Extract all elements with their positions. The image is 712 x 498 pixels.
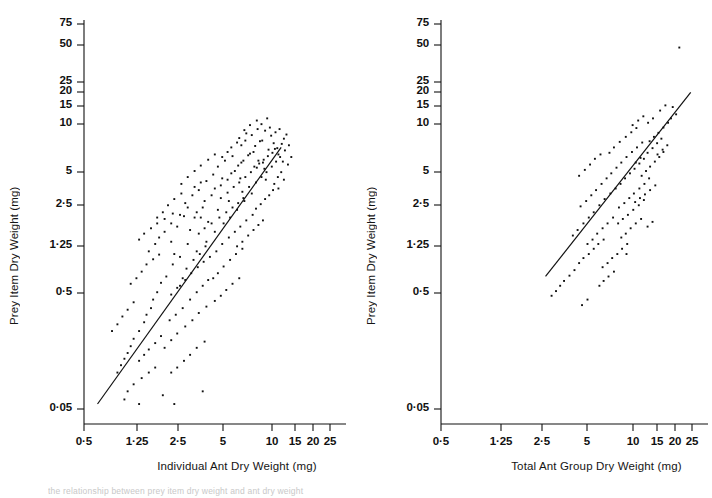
data-point (244, 176, 246, 178)
data-point (638, 188, 640, 190)
data-point (626, 156, 628, 158)
data-point (281, 143, 283, 145)
data-point (133, 301, 135, 303)
data-point (180, 193, 182, 195)
data-point (657, 153, 659, 155)
data-point (158, 237, 160, 239)
data-point (214, 300, 216, 302)
data-point (600, 153, 602, 155)
data-point (187, 243, 189, 245)
data-point (277, 176, 279, 178)
scatter-points (111, 117, 292, 405)
data-point (640, 218, 642, 220)
data-point (243, 129, 245, 131)
data-point (638, 163, 640, 165)
data-point (587, 299, 589, 301)
data-point (638, 204, 640, 206)
data-point (133, 338, 135, 340)
data-point (252, 214, 254, 216)
data-point (578, 175, 580, 177)
data-point (156, 217, 158, 219)
data-point (189, 354, 191, 356)
data-point (205, 241, 207, 243)
data-point (164, 218, 166, 220)
data-point (597, 243, 599, 245)
data-point (141, 271, 143, 273)
data-point (172, 263, 174, 265)
data-point (255, 208, 257, 210)
data-point (626, 253, 628, 255)
data-point (551, 295, 553, 297)
data-point (632, 124, 634, 126)
data-point (220, 184, 222, 186)
data-point (559, 285, 561, 287)
data-point (193, 259, 195, 261)
data-point (620, 183, 622, 185)
data-point (620, 162, 622, 164)
x-tick-label: 5 (567, 435, 607, 447)
data-point (160, 282, 162, 284)
data-point (198, 189, 200, 191)
data-point (613, 271, 615, 273)
data-point (635, 222, 637, 224)
y-tick-label: 50 (357, 37, 429, 49)
data-point (130, 345, 132, 347)
data-point (637, 120, 639, 122)
data-point (245, 132, 247, 134)
data-point (618, 207, 620, 209)
y-tick-label: 75 (0, 16, 72, 28)
data-point (223, 266, 225, 268)
data-point (643, 199, 645, 201)
data-point (627, 214, 629, 216)
y-tick-label: 50 (0, 37, 72, 49)
data-point (256, 120, 258, 122)
data-point (173, 403, 175, 405)
data-point (164, 231, 166, 233)
data-point (135, 277, 137, 279)
data-point (116, 323, 118, 325)
data-point (249, 124, 251, 126)
data-point (244, 140, 246, 142)
y-tick-label: 25 (0, 74, 72, 86)
data-point (262, 162, 264, 164)
x-axis-title-right: Total Ant Group Dry Weight (mg) (451, 460, 712, 472)
data-point (143, 354, 145, 356)
data-point (196, 211, 198, 213)
data-point (170, 339, 172, 341)
data-point (205, 245, 207, 247)
data-point (199, 253, 201, 255)
data-point (154, 243, 156, 245)
data-point (196, 291, 198, 293)
data-point (207, 279, 209, 281)
data-point (191, 194, 193, 196)
data-point (625, 136, 627, 138)
data-point (123, 358, 125, 360)
data-point (232, 155, 234, 157)
data-point (257, 128, 259, 130)
data-point (598, 204, 600, 206)
data-point (207, 159, 209, 161)
data-point (229, 259, 231, 261)
data-point (214, 153, 216, 155)
data-point (282, 161, 284, 163)
data-point (256, 167, 258, 169)
data-point (154, 367, 156, 369)
data-point (275, 131, 277, 133)
data-point (595, 189, 597, 191)
data-point (259, 140, 261, 142)
data-point (176, 367, 178, 369)
data-point (253, 166, 255, 168)
data-point (183, 215, 185, 217)
y-tick-label: 15 (0, 98, 72, 110)
data-point (275, 161, 277, 163)
data-point (228, 237, 230, 239)
data-point (120, 364, 122, 366)
data-point (173, 253, 175, 255)
data-point (227, 192, 229, 194)
data-point (232, 283, 234, 285)
data-point (666, 144, 668, 146)
data-point (269, 127, 271, 129)
data-point (200, 165, 202, 167)
data-point (221, 177, 223, 179)
data-point (626, 243, 628, 245)
